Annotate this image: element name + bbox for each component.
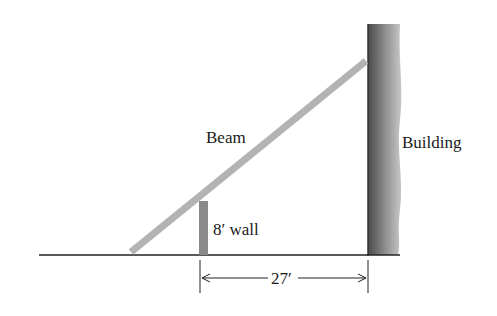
distance-label: 27′ [271,270,292,287]
building-label: Building [402,134,462,151]
wall-label: 8′ wall [213,221,259,238]
building-shape [368,24,401,255]
wall-shape [199,201,208,255]
diagram-canvas [0,0,497,316]
beam-label: Beam [206,129,246,146]
